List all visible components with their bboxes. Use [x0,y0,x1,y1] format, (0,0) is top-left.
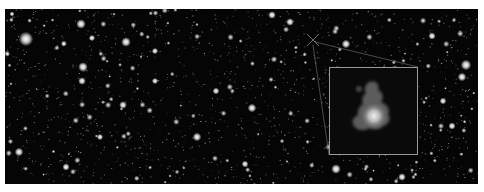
target-marker-icon [307,34,319,46]
galaxy-closeup [330,68,417,154]
zoom-inset [329,67,418,155]
callout-line-left [313,45,329,155]
callout-line-top [315,42,418,67]
deep-field-image [5,9,478,184]
